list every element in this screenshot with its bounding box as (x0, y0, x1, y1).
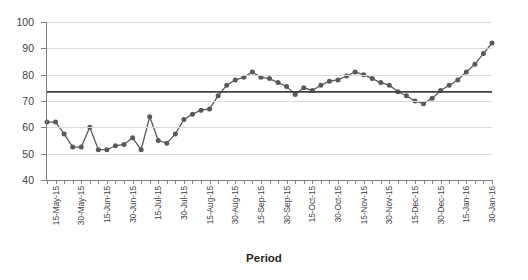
x-axis-tick (107, 180, 108, 184)
x-axis-tick-label: 15-Jun-15 (102, 186, 112, 223)
y-axis-tick-label: 80 (8, 70, 34, 80)
x-axis-tick (227, 180, 228, 184)
data-point (472, 62, 477, 67)
x-axis-tick-label: 30-Dec-15 (436, 186, 446, 224)
data-point (481, 51, 486, 56)
x-axis-tick-label: 15-Jan-16 (461, 186, 471, 223)
x-axis-tick (235, 180, 236, 184)
y-axis-tick-label: 60 (8, 122, 34, 132)
x-axis-tick (167, 180, 168, 184)
x-axis-tick (141, 180, 142, 184)
x-axis-tick (47, 180, 48, 184)
x-axis-tick (295, 180, 296, 184)
gridline (47, 101, 492, 102)
x-axis-tick (184, 180, 185, 184)
data-point (79, 145, 84, 150)
data-point (327, 79, 332, 84)
x-axis-tick (406, 180, 407, 184)
x-axis-tick-label: 30-Jan-16 (487, 186, 497, 223)
x-axis-tick-label: 15-Oct-15 (307, 186, 317, 222)
x-axis-tick-label: 15-May-15 (51, 186, 61, 225)
x-axis-tick (192, 180, 193, 184)
x-axis-tick-label: 15-Dec-15 (410, 186, 420, 224)
data-point (216, 93, 221, 98)
x-axis-tick (364, 180, 365, 184)
x-axis-tick (133, 180, 134, 184)
x-axis-tick (81, 180, 82, 184)
data-point (156, 138, 161, 143)
x-axis-tick (372, 180, 373, 184)
data-point (318, 83, 323, 88)
data-point (104, 147, 109, 152)
y-axis-tick-label: 50 (8, 149, 34, 159)
y-axis-tick-label: 90 (8, 43, 34, 53)
x-axis-tick (381, 180, 382, 184)
x-axis-tick (124, 180, 125, 184)
data-point (233, 77, 238, 82)
y-axis-tick-label: 40 (8, 175, 34, 185)
x-axis-tick-label: 30-Oct-15 (333, 186, 343, 222)
x-axis-tick (244, 180, 245, 184)
x-axis-tick-label: 15-Aug-15 (205, 186, 215, 224)
data-point (139, 147, 144, 152)
x-axis-title: Period (0, 252, 528, 264)
x-axis-tick (73, 180, 74, 184)
data-point (190, 112, 195, 117)
x-axis-tick (355, 180, 356, 184)
x-axis-tick-label: 15-Nov-15 (359, 186, 369, 224)
data-point (181, 117, 186, 122)
gridline (47, 154, 492, 155)
x-axis-tick (175, 180, 176, 184)
data-point (404, 93, 409, 98)
gridline (47, 75, 492, 76)
x-axis-tick (56, 180, 57, 184)
gridline (47, 127, 492, 128)
data-point (284, 84, 289, 89)
x-axis-tick (432, 180, 433, 184)
x-axis-tick (278, 180, 279, 184)
data-point (447, 83, 452, 88)
data-point (370, 76, 375, 81)
data-point (199, 108, 204, 113)
x-axis-tick (64, 180, 65, 184)
x-axis-tick (201, 180, 202, 184)
line-chart: 405060708090100 15-May-1530-May-1515-Jun… (0, 0, 528, 280)
x-axis-tick (415, 180, 416, 184)
x-axis-tick (150, 180, 151, 184)
x-axis-tick (492, 180, 493, 184)
x-axis-tick (252, 180, 253, 184)
x-axis-tick (115, 180, 116, 184)
x-axis-tick (261, 180, 262, 184)
data-point (122, 142, 127, 147)
y-axis-line (46, 22, 47, 181)
x-axis-tick-label: 30-Nov-15 (384, 186, 394, 224)
x-axis-tick (458, 180, 459, 184)
x-axis-tick (424, 180, 425, 184)
y-axis-tick-label: 100 (8, 17, 34, 27)
x-axis-tick (287, 180, 288, 184)
x-axis-tick (466, 180, 467, 184)
data-point (335, 77, 340, 82)
data-point (267, 76, 272, 81)
data-point (164, 141, 169, 146)
data-point (455, 77, 460, 82)
data-point (301, 85, 306, 90)
y-axis-tick-label: 70 (8, 96, 34, 106)
x-axis-tick (312, 180, 313, 184)
x-axis-tick (218, 180, 219, 184)
x-axis-tick (441, 180, 442, 184)
x-axis-tick (210, 180, 211, 184)
x-axis-tick (304, 180, 305, 184)
x-axis-tick-label: 15-Sep-15 (256, 186, 266, 224)
data-point (130, 135, 135, 140)
data-point (224, 83, 229, 88)
x-axis-tick (158, 180, 159, 184)
x-axis-tick-label: 30-Sep-15 (282, 186, 292, 224)
data-point (173, 131, 178, 136)
x-axis-tick (90, 180, 91, 184)
x-axis-tick (321, 180, 322, 184)
x-axis-tick (449, 180, 450, 184)
x-axis-tick (98, 180, 99, 184)
x-axis-tick-label: 30-Aug-15 (230, 186, 240, 224)
data-point (113, 143, 118, 148)
